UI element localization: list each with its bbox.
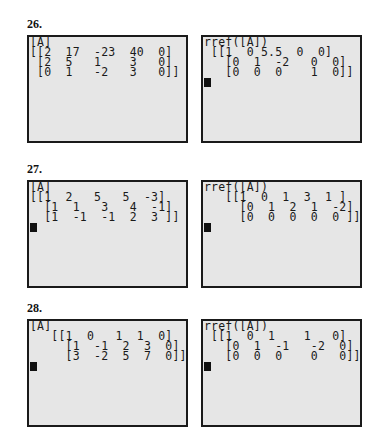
screen-line: [1 -1 -1 2 3 ]] xyxy=(29,212,186,223)
calculator-screen-26-rref: rref([A]) [[1 0 5.5 0 0] [0 1 -2 0 0] [0… xyxy=(201,35,362,143)
screen-line: [0 1 -2 3 0]] xyxy=(29,67,186,78)
calculator-screen-28-matrix: [A] [[1 0 1 1 0] [1 -1 2 3 0] [3 -2 5 7 … xyxy=(27,319,188,427)
problem-27-label: 27. xyxy=(27,162,42,177)
calculator-screen-27-matrix: [A] [[1 2 5 5 -3] [1 1 3 4 -1] [1 -1 -1 … xyxy=(27,180,188,288)
screen-line: [0 0 0 1 0]] xyxy=(203,67,360,78)
screen-line: [0 0 0 0 0]] xyxy=(203,351,360,362)
calculator-screen-27-rref: rref([A]) [[1 0 1 3 1 ] [0 1 2 1 -2] [0 … xyxy=(201,180,362,288)
problem-26-label: 26. xyxy=(27,17,42,32)
calculator-screen-28-rref: rref([A]) [[1 0 1 1 0] [0 1 -1 -2 0] [0 … xyxy=(201,319,362,427)
calculator-screen-26-matrix: [A] [[2 17 -23 40 0] [2 5 1 3 0] [0 1 -2… xyxy=(27,35,188,143)
screen-line: [0 0 0 0 0 ]] xyxy=(203,212,360,223)
problem-28-label: 28. xyxy=(27,301,42,316)
screen-line: [3 -2 5 7 0]] xyxy=(29,351,186,362)
